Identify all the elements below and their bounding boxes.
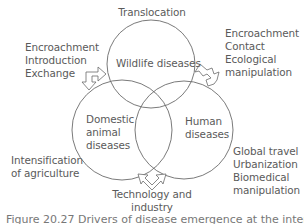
driver-top-left: Encroachment Introduction Exchange xyxy=(25,41,99,80)
circle-label: diseases xyxy=(86,139,134,152)
driver-text: Intensification xyxy=(11,154,83,167)
driver-text: Encroachment xyxy=(25,41,99,54)
circle-label: animal xyxy=(86,126,134,139)
driver-text: Translocation xyxy=(118,6,186,19)
driver-text: Encroachment xyxy=(225,27,299,40)
driver-text: Exchange xyxy=(25,67,99,80)
driver-text: manipulation xyxy=(225,66,299,79)
driver-top: Translocation xyxy=(118,6,186,19)
driver-left: Intensification of agriculture xyxy=(11,154,83,180)
driver-top-right: Encroachment Contact Ecological manipula… xyxy=(225,27,299,79)
driver-text: Global travel xyxy=(233,145,300,158)
driver-text: Contact xyxy=(225,40,299,53)
domestic-label: Domestic animal diseases xyxy=(86,113,134,152)
driver-bottom: Technology and industry xyxy=(112,188,192,214)
driver-text: Ecological xyxy=(225,53,299,66)
driver-text: Urbanization xyxy=(233,158,300,171)
human-label: Human diseases xyxy=(185,115,229,141)
circle-label: Human xyxy=(185,115,229,128)
driver-right: Global travel Urbanization Biomedical ma… xyxy=(233,145,300,197)
driver-text: Technology and xyxy=(112,188,192,201)
circle-label: diseases xyxy=(185,128,229,141)
venn-diagram: Translocation Encroachment Introduction … xyxy=(0,0,304,224)
driver-text: Introduction xyxy=(25,54,99,67)
figure-caption: Figure 20.27 Drivers of disease emergenc… xyxy=(6,213,304,224)
driver-text: Biomedical xyxy=(233,171,300,184)
wildlife-label: Wildlife diseases xyxy=(116,57,201,70)
driver-text: manipulation xyxy=(233,184,300,197)
circle-label: Wildlife diseases xyxy=(116,57,201,70)
circle-label: Domestic xyxy=(86,113,134,126)
driver-text: of agriculture xyxy=(11,167,83,180)
